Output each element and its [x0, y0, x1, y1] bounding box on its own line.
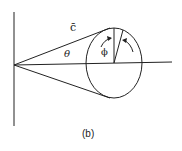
figure-caption: (b): [82, 128, 94, 139]
phi-label: ϕ: [101, 46, 108, 57]
arrowhead-left: [107, 36, 112, 41]
cone-upper-edge: [14, 28, 110, 65]
vector-c-label: c̄: [70, 21, 76, 34]
cone-lower-edge: [14, 65, 110, 98]
horizontal-axis: [14, 62, 172, 65]
radius-rotated: [114, 30, 123, 63]
arrowhead-right: [122, 38, 127, 43]
theta-label: θ: [64, 48, 70, 59]
